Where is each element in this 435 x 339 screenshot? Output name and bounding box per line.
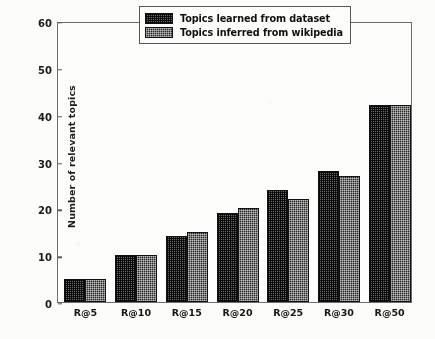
- bar-R-at-10-series-0: [115, 255, 136, 302]
- bar-R-at-5-series-1: [85, 279, 106, 302]
- legend: Topics learned from dataset Topics infer…: [139, 6, 351, 44]
- y-tick-mark: [58, 22, 62, 23]
- bar-R-at-15-series-0: [166, 236, 187, 302]
- y-tick-mark: [58, 69, 62, 70]
- bar-R-at-25-series-1: [288, 199, 309, 302]
- x-tick-label: R@30: [324, 307, 354, 318]
- x-tick-label: R@50: [375, 307, 405, 318]
- y-tick-label: 20: [22, 205, 58, 216]
- legend-label-series-1: Topics inferred from wikipedia: [180, 27, 343, 38]
- figure: Number of relevant topics 0102030405060 …: [0, 0, 435, 339]
- y-tick-label: 40: [22, 111, 58, 122]
- y-tick-mark: [58, 116, 62, 117]
- bar-R-at-30-series-0: [318, 171, 339, 302]
- x-tick-label: R@15: [172, 307, 202, 318]
- plot-area: Number of relevant topics 0102030405060 …: [57, 22, 412, 303]
- y-tick-label: 30: [22, 158, 58, 169]
- bar-R-at-15-series-1: [187, 232, 208, 302]
- bar-R-at-25-series-0: [267, 190, 288, 302]
- x-tick-label: R@5: [74, 307, 97, 318]
- bar-R-at-20-series-1: [238, 208, 259, 302]
- y-axis-label: Number of relevant topics: [66, 12, 77, 302]
- legend-label-series-0: Topics learned from dataset: [180, 13, 330, 24]
- bar-R-at-50-series-1: [390, 105, 411, 302]
- x-tick-label: R@25: [273, 307, 303, 318]
- y-tick-label: 0: [22, 299, 58, 310]
- y-tick-label: 50: [22, 64, 58, 75]
- y-tick-mark: [58, 163, 62, 164]
- legend-swatch-icon-series-0: [145, 13, 173, 24]
- y-tick-mark: [58, 303, 62, 304]
- legend-item-1: Topics inferred from wikipedia: [145, 25, 343, 39]
- bar-R-at-20-series-0: [217, 213, 238, 302]
- y-tick-mark: [58, 210, 62, 211]
- y-tick-mark: [58, 256, 62, 257]
- bar-R-at-30-series-1: [339, 176, 360, 302]
- bar-R-at-10-series-1: [136, 255, 157, 302]
- legend-item-0: Topics learned from dataset: [145, 11, 343, 25]
- x-tick-label: R@10: [121, 307, 151, 318]
- legend-swatch-icon-series-1: [145, 27, 173, 38]
- bar-R-at-5-series-0: [64, 279, 85, 302]
- y-tick-label: 10: [22, 252, 58, 263]
- y-tick-label: 60: [22, 18, 58, 29]
- x-tick-label: R@20: [222, 307, 252, 318]
- bar-R-at-50-series-0: [369, 105, 390, 302]
